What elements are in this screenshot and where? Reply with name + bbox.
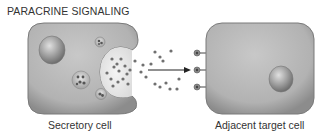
arrow-icon — [148, 67, 191, 73]
receptor-icon — [194, 50, 207, 90]
secretory-cell-label: Secretory cell — [48, 119, 112, 131]
target-cell — [206, 23, 314, 114]
secretory-cell — [28, 23, 138, 114]
paracrine-diagram — [0, 0, 332, 138]
target-cell-label: Adjacent target cell — [215, 119, 304, 131]
nucleus-icon — [39, 36, 65, 64]
nucleus-icon — [269, 66, 293, 92]
